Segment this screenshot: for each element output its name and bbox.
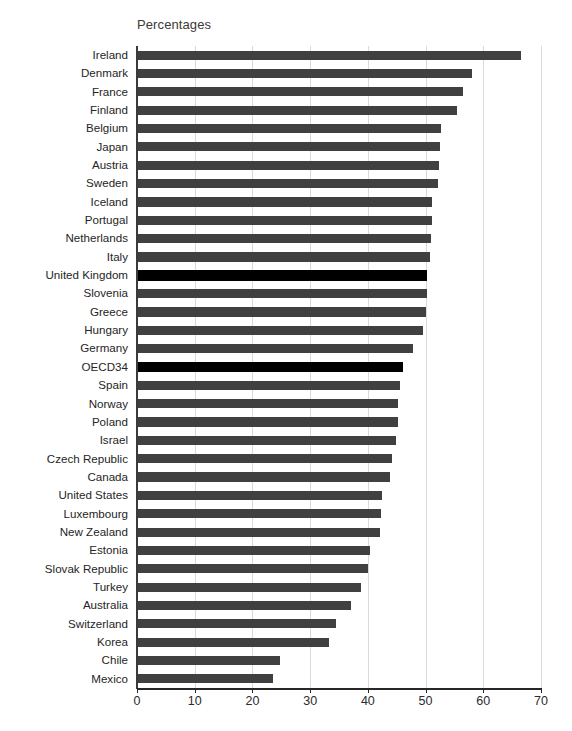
bar-row: [137, 505, 541, 523]
x-tick-label-30: 30: [290, 694, 330, 708]
y-axis-label-belgium: Belgium: [0, 119, 128, 137]
y-axis-label-switzerland: Switzerland: [0, 615, 128, 633]
y-axis-label-israel: Israel: [0, 431, 128, 449]
bar-row: [137, 266, 541, 284]
bar-row: [137, 119, 541, 137]
x-tick-label-20: 20: [232, 694, 272, 708]
bar-chile: [137, 656, 280, 665]
y-axis-label-japan: Japan: [0, 138, 128, 156]
bar-row: [137, 284, 541, 302]
bar-canada: [137, 472, 390, 481]
y-axis-label-denmark: Denmark: [0, 64, 128, 82]
x-tick-label-60: 60: [463, 694, 503, 708]
plot-area: [137, 46, 541, 688]
bar-row: [137, 431, 541, 449]
x-tick-mark-60: [483, 688, 484, 693]
x-tick-label-70: 70: [521, 694, 561, 708]
y-axis-label-portugal: Portugal: [0, 211, 128, 229]
x-tick-mark-30: [310, 688, 311, 693]
bar-row: [137, 596, 541, 614]
chart-title: Percentages: [137, 17, 211, 32]
y-axis-line: [136, 46, 138, 689]
bar-czech-republic: [137, 454, 392, 463]
y-axis-label-united-kingdom: United Kingdom: [0, 266, 128, 284]
x-tick-mark-40: [368, 688, 369, 693]
y-axis-label-greece: Greece: [0, 303, 128, 321]
bar-israel: [137, 436, 396, 445]
bottom-caption: [120, 722, 540, 731]
y-axis-label-iceland: Iceland: [0, 193, 128, 211]
y-axis-label-estonia: Estonia: [0, 541, 128, 559]
bar-row: [137, 395, 541, 413]
y-axis-label-korea: Korea: [0, 633, 128, 651]
bar-row: [137, 541, 541, 559]
y-axis-label-austria: Austria: [0, 156, 128, 174]
y-axis-label-slovenia: Slovenia: [0, 284, 128, 302]
y-axis-label-finland: Finland: [0, 101, 128, 119]
bar-row: [137, 358, 541, 376]
bar-italy: [137, 252, 430, 261]
bar-row: [137, 46, 541, 64]
bar-row: [137, 560, 541, 578]
bar-row: [137, 156, 541, 174]
bar-row: [137, 523, 541, 541]
y-axis-label-mexico: Mexico: [0, 670, 128, 688]
bar-row: [137, 248, 541, 266]
bar-row: [137, 486, 541, 504]
y-axis-label-czech-republic: Czech Republic: [0, 450, 128, 468]
bar-new-zealand: [137, 528, 380, 537]
bar-hungary: [137, 326, 423, 335]
bar-greece: [137, 307, 426, 316]
bar-turkey: [137, 583, 361, 592]
bar-row: [137, 651, 541, 669]
bar-spain: [137, 381, 400, 390]
bar-netherlands: [137, 234, 431, 243]
bar-oecd34: [137, 362, 403, 372]
bar-united-states: [137, 491, 382, 500]
bar-mexico: [137, 674, 273, 683]
y-axis-label-oecd34: OECD34: [0, 358, 128, 376]
bar-iceland: [137, 197, 432, 206]
bar-row: [137, 633, 541, 651]
bar-row: [137, 229, 541, 247]
bar-korea: [137, 638, 329, 647]
bar-luxembourg: [137, 509, 381, 518]
bar-estonia: [137, 546, 370, 555]
bar-row: [137, 303, 541, 321]
y-axis-label-france: France: [0, 83, 128, 101]
bar-row: [137, 174, 541, 192]
bar-row: [137, 339, 541, 357]
bar-row: [137, 321, 541, 339]
bar-finland: [137, 106, 457, 115]
x-tick-mark-20: [252, 688, 253, 693]
bar-slovenia: [137, 289, 427, 298]
y-axis-label-ireland: Ireland: [0, 46, 128, 64]
bar-row: [137, 211, 541, 229]
x-tick-mark-70: [541, 688, 542, 693]
y-axis-label-canada: Canada: [0, 468, 128, 486]
gridline-70: [541, 46, 542, 688]
bar-row: [137, 578, 541, 596]
y-axis-label-luxembourg: Luxembourg: [0, 505, 128, 523]
x-tick-mark-50: [426, 688, 427, 693]
bar-row: [137, 64, 541, 82]
bar-belgium: [137, 124, 441, 133]
y-axis-label-hungary: Hungary: [0, 321, 128, 339]
y-axis-label-italy: Italy: [0, 248, 128, 266]
bar-denmark: [137, 69, 472, 78]
x-tick-label-0: 0: [117, 694, 157, 708]
x-tick-label-10: 10: [175, 694, 215, 708]
bar-row: [137, 670, 541, 688]
bar-row: [137, 468, 541, 486]
bar-row: [137, 193, 541, 211]
bar-norway: [137, 399, 398, 408]
bar-row: [137, 83, 541, 101]
y-axis-label-netherlands: Netherlands: [0, 229, 128, 247]
bar-austria: [137, 161, 439, 170]
y-axis-label-norway: Norway: [0, 395, 128, 413]
bar-poland: [137, 417, 398, 426]
y-axis-label-sweden: Sweden: [0, 174, 128, 192]
y-axis-label-spain: Spain: [0, 376, 128, 394]
bar-slovak-republic: [137, 564, 368, 573]
bar-row: [137, 138, 541, 156]
